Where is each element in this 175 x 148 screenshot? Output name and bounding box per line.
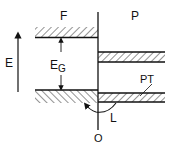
label-pt: PT (140, 73, 154, 85)
label-o: O (94, 132, 103, 144)
label-e-axis: E (5, 56, 13, 70)
f-upper-band (35, 27, 98, 38)
band-diagram: F P E EG PT L O (0, 0, 175, 148)
p-lower-band (98, 93, 165, 102)
label-f: F (60, 9, 67, 23)
label-eg: EG (50, 58, 66, 74)
label-l: L (110, 111, 117, 125)
f-lower-band (35, 90, 98, 103)
p-upper-band (98, 52, 165, 62)
label-p: P (131, 9, 139, 23)
